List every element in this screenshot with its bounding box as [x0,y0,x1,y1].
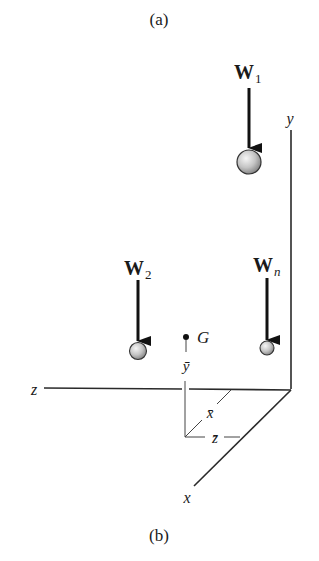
x-bar-label: x̄ [206,405,214,421]
weight-w1-label: W1 [234,61,262,86]
y-axis: y [284,110,294,389]
x-bar-line-lower [185,420,202,437]
y-bar-label: ȳ [181,358,190,374]
centroid-projection: x̄ z̄ [185,381,240,446]
y-axis-label: y [284,110,294,128]
z-bar-label: z̄ [211,430,218,446]
centroid-label: G [197,328,209,347]
x-axis-label: x [182,489,190,506]
caption-b: (b) [149,526,169,545]
weight-wn-sphere [260,341,274,355]
z-axis: z [30,381,291,398]
weight-w2-sphere [130,343,147,360]
x-bar-line-upper [217,390,231,404]
weight-wn-label: Wn [253,254,281,279]
weight-w1-sphere [237,150,261,174]
centroid-point [183,334,189,340]
weight-w2-label: W2 [124,257,152,282]
caption-a: (a) [150,10,169,29]
weight-w1: W1 [234,61,262,174]
z-axis-label: z [30,381,38,398]
weight-wn: Wn [253,254,281,355]
centroid-g: G ȳ [181,328,210,374]
weight-w2: W2 [124,257,152,360]
x-axis: x [182,390,291,506]
centroid-diagram: (a) y z x (b) W1 W2 Wn G ȳ [0,0,319,561]
